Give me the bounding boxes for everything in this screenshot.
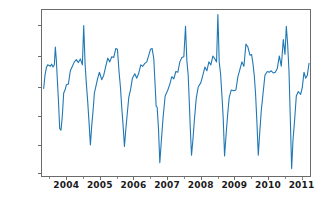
x-tick-label: 2004 xyxy=(53,180,79,190)
data-series-line xyxy=(42,10,310,176)
x-tick-minor-mark xyxy=(184,177,185,179)
x-tick-minor-mark xyxy=(150,177,151,179)
plot-area xyxy=(41,9,311,177)
x-tick-label: 2007 xyxy=(154,180,180,190)
x-tick-label: 2005 xyxy=(87,180,113,190)
x-tick-minor-mark xyxy=(218,177,219,179)
x-tick-minor-mark xyxy=(49,177,50,179)
x-tick-label: 2010 xyxy=(255,180,281,190)
x-tick-label: 2008 xyxy=(188,180,214,190)
x-tick-label: 2011 xyxy=(289,180,315,190)
x-tick-label: 2006 xyxy=(121,180,147,190)
x-tick-minor-mark xyxy=(83,177,84,179)
figure: 400 200 0 −200 −400 −600 200420052006200… xyxy=(0,0,324,201)
x-tick-minor-mark xyxy=(251,177,252,179)
x-tick-minor-mark xyxy=(302,177,303,179)
x-tick-minor-mark xyxy=(117,177,118,179)
x-tick-minor-mark xyxy=(285,177,286,179)
x-tick-label: 2009 xyxy=(221,180,247,190)
